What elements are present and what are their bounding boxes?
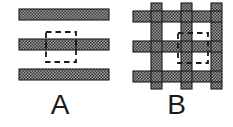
bars-group-a [19,9,109,80]
lattice-bar-vertical-1 [151,3,162,89]
figure-root: A B [0,0,233,127]
bar-horizontal-2 [19,39,109,50]
bar-horizontal-3 [19,69,109,80]
panel-b-label: B [120,90,233,120]
bar-horizontal-1 [19,9,109,20]
panel-b-diagram [120,0,233,92]
panel-a-diagram [0,0,120,92]
lattice-bar-horizontal-1 [133,11,219,22]
lattice-bar-vertical-2 [181,3,192,89]
panel-a-label: A [0,90,120,120]
panel-b: B [120,0,233,127]
panel-a: A [0,0,120,127]
lattice-bar-vertical-3 [211,3,222,89]
lattice-bar-horizontal-2 [133,41,219,52]
lattice-bar-horizontal-3 [133,71,219,82]
